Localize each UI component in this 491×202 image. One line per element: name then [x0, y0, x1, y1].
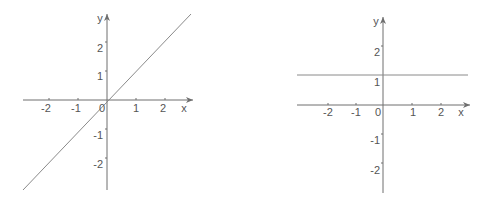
x-axis-label: x	[181, 102, 187, 114]
y-tick-label: -2	[93, 158, 103, 170]
x-tick-label: 2	[438, 106, 444, 118]
y-axis-label: y	[97, 12, 103, 24]
y-axis-label: y	[373, 15, 379, 27]
x-tick-label: -2	[41, 102, 51, 114]
y-tick-label: 1	[374, 76, 380, 88]
origin-label: 0	[99, 102, 105, 114]
y-tick-label: -2	[370, 164, 380, 176]
graphs-canvas: -2 -1 1 2 x 0 2 1 -1 -2 y -2 -1 1 2 x 0 …	[0, 0, 491, 202]
graph-right: -2 -1 1 2 x 0 2 1 -1 -2 y	[297, 15, 470, 193]
y-tick-label: 1	[97, 70, 103, 82]
y-tick-label: 2	[374, 46, 380, 58]
y-tick-label: -1	[370, 134, 380, 146]
x-tick-label: 1	[410, 106, 416, 118]
x-tick-label: -2	[323, 106, 333, 118]
origin-label: 0	[375, 106, 381, 118]
x-axis-label: x	[458, 106, 464, 118]
graph-left: -2 -1 1 2 x 0 2 1 -1 -2 y	[23, 12, 193, 190]
y-tick-label: 2	[97, 42, 103, 54]
x-tick-label: 1	[133, 102, 139, 114]
x-tick-label: -1	[351, 106, 361, 118]
x-tick-label: 2	[160, 102, 166, 114]
x-tick-label: -1	[71, 102, 81, 114]
y-tick-label: -1	[93, 129, 103, 141]
